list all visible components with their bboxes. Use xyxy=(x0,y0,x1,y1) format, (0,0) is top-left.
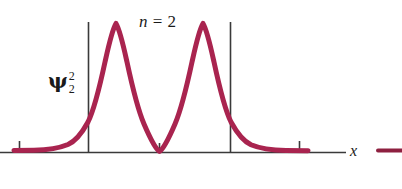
psi-superscript: 2 xyxy=(69,70,75,82)
quantum-wavefunction-figure: ψ22 n = 2 x xyxy=(0,0,402,189)
x-axis-label: x xyxy=(350,143,357,159)
psi-symbol: ψ xyxy=(48,68,68,93)
quantum-number-equals: = xyxy=(148,12,168,31)
quantum-number-value: 2 xyxy=(168,12,177,31)
psi-subscript: 2 xyxy=(69,83,75,95)
psi-indices: 22 xyxy=(69,70,75,94)
quantum-number-variable: n xyxy=(139,12,148,31)
psi-squared-label: ψ22 xyxy=(48,70,75,95)
quantum-number-label: n = 2 xyxy=(139,13,177,30)
